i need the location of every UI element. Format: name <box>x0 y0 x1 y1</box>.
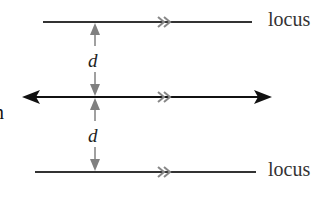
bottom-locus-label: locus <box>268 158 310 181</box>
top-locus-label: locus <box>268 8 310 31</box>
given-line <box>22 90 272 104</box>
distance-label-top: d <box>88 50 98 72</box>
distance-label-bottom: d <box>88 125 98 147</box>
left-partial-label: n <box>0 101 4 124</box>
